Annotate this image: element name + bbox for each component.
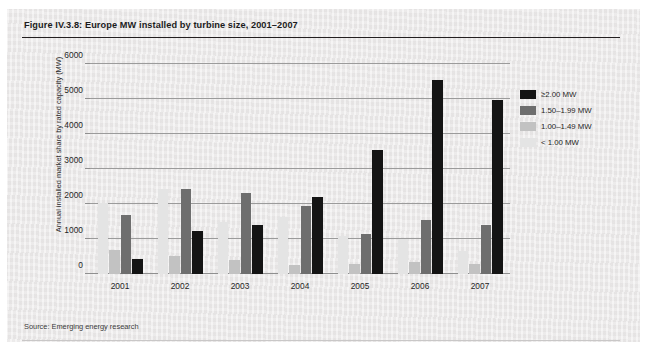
bar bbox=[312, 197, 323, 274]
bar bbox=[301, 206, 312, 274]
bar bbox=[432, 80, 443, 274]
y-tick-label-1000: 1000 bbox=[64, 225, 83, 235]
bar bbox=[361, 234, 372, 274]
bar-group-2005: 2005 bbox=[330, 64, 390, 274]
bar bbox=[469, 264, 480, 275]
y-tick-label-0: 0 bbox=[78, 260, 83, 270]
legend-item: ≥2.00 MW bbox=[520, 86, 620, 102]
bar bbox=[158, 189, 169, 274]
y-tick-label-4000: 4000 bbox=[64, 120, 83, 130]
bar bbox=[372, 150, 383, 274]
figure-title: Figure IV.3.8: Europe MW installed by tu… bbox=[24, 20, 298, 30]
legend-item-label: 1.50–1.99 MW bbox=[541, 106, 592, 115]
bar bbox=[421, 220, 432, 274]
bar-group-2002: 2002 bbox=[150, 64, 210, 274]
bar bbox=[121, 215, 132, 275]
x-tick-label-2006: 2006 bbox=[411, 281, 430, 291]
legend-item: 1.50–1.99 MW bbox=[520, 102, 620, 118]
bar-group-2007: 2007 bbox=[450, 64, 510, 274]
bar bbox=[229, 260, 240, 274]
bar bbox=[109, 250, 120, 275]
bar bbox=[492, 100, 503, 274]
figure-container: Figure IV.3.8: Europe MW installed by tu… bbox=[22, 16, 622, 334]
bar bbox=[252, 225, 263, 274]
bar-group-2001: 2001 bbox=[90, 64, 150, 274]
legend-item-label: ≥2.00 MW bbox=[541, 90, 576, 99]
bar-group-2003: 2003 bbox=[210, 64, 270, 274]
x-tick-label-2005: 2005 bbox=[351, 281, 370, 291]
bar bbox=[169, 256, 180, 274]
bar bbox=[192, 231, 203, 274]
x-tick-label-2001: 2001 bbox=[111, 281, 130, 291]
legend-swatch-icon bbox=[520, 106, 536, 115]
x-tick-label-2007: 2007 bbox=[471, 281, 490, 291]
legend-swatch-icon bbox=[520, 122, 536, 131]
x-tick-label-2004: 2004 bbox=[291, 281, 310, 291]
legend-item: < 1.00 MW bbox=[520, 134, 620, 150]
bar-chart: Annual installed market share by rated c… bbox=[22, 48, 620, 316]
legend-swatch-icon bbox=[520, 90, 536, 99]
legend-item-label: < 1.00 MW bbox=[541, 138, 579, 147]
bar bbox=[481, 225, 492, 274]
bar bbox=[338, 236, 349, 274]
title-divider-rule bbox=[22, 37, 620, 38]
legend-item: 1.00–1.49 MW bbox=[520, 118, 620, 134]
y-axis-label: Annual installed market share by rated c… bbox=[54, 45, 63, 245]
bar bbox=[98, 203, 109, 274]
bar bbox=[181, 189, 192, 274]
x-tick-label-2002: 2002 bbox=[171, 281, 190, 291]
legend-item-label: 1.00–1.49 MW bbox=[541, 122, 592, 131]
bar bbox=[349, 264, 360, 274]
figure-source-note: Source: Emerging energy research bbox=[24, 322, 139, 331]
chart-legend: ≥2.00 MW1.50–1.99 MW1.00–1.49 MW< 1.00 M… bbox=[520, 86, 620, 150]
bar bbox=[218, 222, 229, 275]
plot-area: 0100020003000400050006000200120022003200… bbox=[90, 64, 510, 274]
figure-bottom-rule bbox=[22, 340, 620, 341]
y-tick-label-6000: 6000 bbox=[64, 50, 83, 60]
y-tick-label-2000: 2000 bbox=[64, 190, 83, 200]
bar bbox=[132, 259, 143, 274]
bar bbox=[241, 193, 252, 274]
legend-swatch-icon bbox=[520, 138, 536, 147]
bar-group-2004: 2004 bbox=[270, 64, 330, 274]
y-tick-label-3000: 3000 bbox=[64, 155, 83, 165]
bar bbox=[409, 262, 420, 274]
x-tick-label-2003: 2003 bbox=[231, 281, 250, 291]
bar-group-2006: 2006 bbox=[390, 64, 450, 274]
y-tick-label-5000: 5000 bbox=[64, 85, 83, 95]
bar bbox=[398, 239, 409, 274]
bar bbox=[289, 265, 300, 274]
bar bbox=[458, 251, 469, 274]
bar bbox=[278, 217, 289, 274]
